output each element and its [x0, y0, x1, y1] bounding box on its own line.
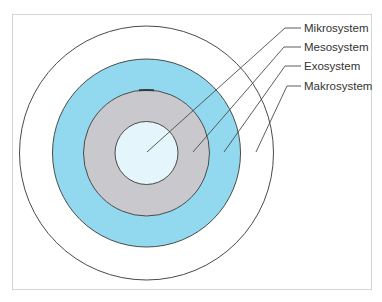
label-mikrosystem: Mikrosystem	[304, 21, 369, 35]
label-mesosystem: Mesosystem	[304, 40, 369, 54]
label-exosystem: Exosystem	[304, 59, 360, 73]
mikrosystem-circle	[115, 122, 178, 185]
label-makrosystem: Makrosystem	[304, 79, 372, 93]
